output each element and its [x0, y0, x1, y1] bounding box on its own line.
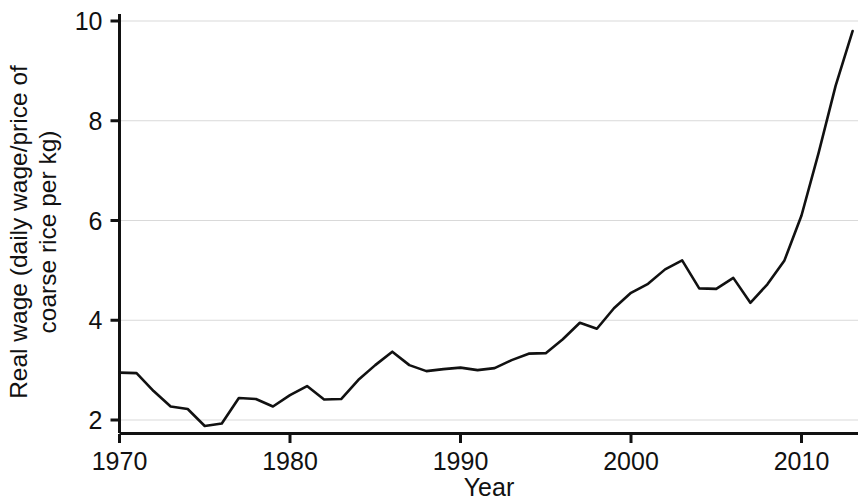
- x-axis-tick-labels: 19701980199020002010: [92, 447, 830, 475]
- x-tick-label-2010: 2010: [774, 447, 830, 475]
- x-axis-title: Year: [464, 473, 515, 501]
- y-tick-label-8: 8: [89, 107, 103, 135]
- x-tick-label-1980: 1980: [262, 447, 318, 475]
- y-axis-title: Real wage (daily wage/price of coarse ri…: [5, 65, 61, 399]
- y-tick-label-4: 4: [89, 306, 103, 334]
- y-tick-label-6: 6: [89, 207, 103, 235]
- x-axis-ticks: [120, 434, 802, 443]
- axes: [120, 14, 859, 434]
- chart-figure: 246810 19701980199020002010 Year Real wa…: [0, 0, 861, 502]
- x-tick-label-1970: 1970: [92, 447, 148, 475]
- y-axis-title-line-2: coarse rice per kg): [34, 131, 61, 334]
- data-series-line: [120, 31, 853, 426]
- y-axis-tick-labels: 246810: [75, 7, 103, 434]
- y-axis-title-line-1: Real wage (daily wage/price of: [5, 65, 32, 399]
- y-tick-label-10: 10: [75, 7, 103, 35]
- gridlines: [120, 21, 859, 420]
- x-tick-label-2000: 2000: [603, 447, 659, 475]
- line-chart: 246810 19701980199020002010 Year Real wa…: [0, 0, 861, 502]
- y-tick-label-2: 2: [89, 406, 103, 434]
- x-tick-label-1990: 1990: [433, 447, 489, 475]
